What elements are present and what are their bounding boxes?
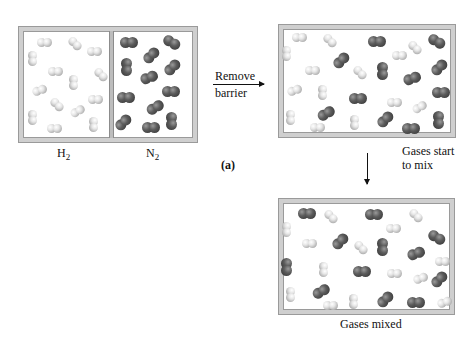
atom-icon [378, 69, 389, 80]
atom-icon [409, 123, 420, 134]
mixed-container [279, 199, 454, 314]
atom-icon [356, 93, 367, 104]
atom-icon [149, 122, 160, 133]
panel-label: (a) [221, 158, 235, 173]
atom-icon [169, 86, 180, 97]
atom-icon [372, 209, 383, 220]
atom-icon [375, 36, 386, 47]
atom-icon [94, 95, 103, 104]
atom-icon [282, 265, 293, 276]
atom-icon [167, 119, 178, 130]
gases-mixed-caption: Gases mixed [340, 317, 402, 332]
atom-icon [434, 118, 445, 129]
atom-icon [308, 239, 317, 248]
atom-icon [43, 38, 52, 47]
h2-label: H2 [57, 146, 70, 162]
n2-label: N2 [146, 146, 159, 162]
atom-icon [329, 301, 338, 310]
n2-subscript: 2 [155, 152, 160, 162]
atom-icon [439, 87, 450, 98]
h2-subscript: 2 [66, 152, 71, 162]
atom-icon [393, 269, 402, 278]
remove-barrier-label-line1: Remove [215, 69, 255, 84]
atom-icon [298, 33, 307, 42]
atom-icon [316, 123, 325, 132]
atom-icon [54, 67, 63, 76]
atom-icon [360, 266, 371, 277]
atom-icon [311, 66, 320, 75]
n2-symbol: N [146, 146, 155, 160]
atom-icon [378, 245, 389, 256]
atom-icon [124, 92, 135, 103]
gases-start-label-line2: to mix [402, 158, 433, 173]
atom-icon [305, 208, 316, 219]
atom-icon [127, 37, 138, 48]
barrier-divider [109, 31, 114, 138]
h2-symbol: H [57, 146, 66, 160]
atom-icon [93, 47, 102, 56]
atom-icon [414, 297, 425, 308]
atom-icon [392, 224, 401, 233]
gases-start-label-line1: Gases start [402, 144, 454, 159]
atom-icon [441, 257, 450, 266]
remove-barrier-label-line2: barrier [215, 86, 247, 101]
initial-container [19, 27, 197, 142]
atom-icon [122, 65, 133, 76]
mixing-container [279, 25, 455, 137]
atom-icon [393, 98, 402, 107]
down-arrow-icon [367, 153, 368, 184]
right-arrow-icon [213, 84, 264, 85]
atom-icon [398, 51, 407, 60]
atom-icon [53, 124, 62, 133]
